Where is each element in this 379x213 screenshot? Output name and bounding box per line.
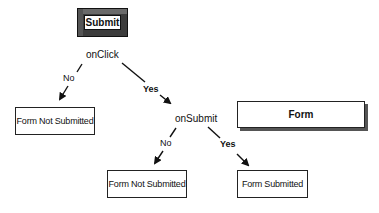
onsubmit-no-label: No xyxy=(160,138,172,148)
submit-button-label: Submit xyxy=(84,15,121,30)
outcome-form-not-submitted-click: Form Not Submitted xyxy=(15,107,95,135)
onclick-no-label: No xyxy=(63,73,75,83)
outcome-form-not-submitted-submit: Form Not Submitted xyxy=(107,170,187,198)
submit-button[interactable]: Submit xyxy=(77,8,128,37)
onclick-event-label: onClick xyxy=(86,49,119,60)
button-bevel xyxy=(78,9,127,14)
outcome-form-submitted: Form Submitted xyxy=(237,170,308,198)
onsubmit-yes-label: Yes xyxy=(220,139,236,149)
onclick-yes-label: Yes xyxy=(143,84,159,94)
onsubmit-event-label: onSubmit xyxy=(175,113,217,124)
form-box: Form xyxy=(237,101,365,128)
button-bevel xyxy=(78,9,83,36)
